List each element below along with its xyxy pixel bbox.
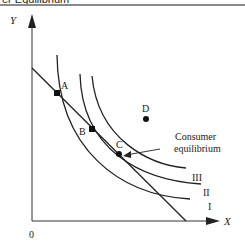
curve-label-i: I [208,201,211,212]
point-d-marker [143,116,149,122]
y-axis-arrow-icon [28,14,36,28]
point-c-marker [116,151,122,157]
curve-label-iii: III [192,172,202,183]
indifference-curve-iii [92,76,186,168]
point-d-label: D [142,103,149,114]
annotation-arrow-line [126,149,160,155]
point-a-label: A [61,80,69,91]
curve-label-ii: II [203,187,210,198]
point-b-marker [89,126,95,132]
annotation-line-2: equilibrium [174,143,221,154]
axes [28,14,220,225]
point-a-marker [54,90,60,96]
consumer-equilibrium-diagram: Y X 0 III II I A B C D Consumer equilibr… [0,0,245,249]
x-axis-label: X [223,215,232,227]
point-c-label: C [116,139,123,150]
origin-label: 0 [29,229,34,240]
indifference-curve-i [57,55,190,199]
x-axis-arrow-icon [206,217,220,225]
point-b-label: B [79,126,86,137]
annotation-arrow-icon [123,151,131,158]
y-axis-label: Y [10,14,18,26]
annotation-line-1: Consumer [175,131,217,142]
